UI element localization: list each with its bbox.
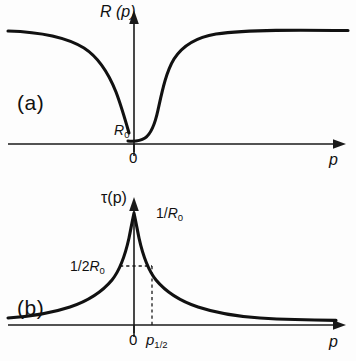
peak-subscript: 0 bbox=[178, 212, 183, 223]
r0-subscript: 0 bbox=[124, 129, 129, 140]
half-width-subscript: 1/2 bbox=[154, 339, 167, 350]
peak-variable: R bbox=[168, 205, 178, 221]
panel-a-label: (a) bbox=[17, 92, 44, 113]
half-subscript: 0 bbox=[100, 265, 105, 276]
panel-b-origin-label: 0 bbox=[129, 332, 137, 347]
panel-a-y-axis-label: R (p) bbox=[100, 4, 136, 20]
x-axis-arrowhead bbox=[333, 139, 346, 149]
figure-container: (a) R (p) p 0 R0 (b) τ(p) p 0 1/R0 bbox=[0, 0, 356, 361]
panel-b-label: (b) bbox=[17, 297, 44, 318]
panel-a-r0-label: R0 bbox=[114, 123, 129, 137]
r0-variable: R bbox=[114, 122, 124, 138]
half-width-label: p1/2 bbox=[146, 332, 168, 347]
panel-b-y-axis-label: τ(p) bbox=[101, 190, 127, 206]
half-numerator: 1/2 bbox=[70, 258, 89, 274]
half-variable: R bbox=[89, 258, 99, 274]
panel-a-plot bbox=[0, 0, 356, 180]
panel-a-curve-left bbox=[8, 31, 129, 133]
y-axis-arrowhead bbox=[129, 197, 139, 211]
panel-a-x-axis bbox=[8, 139, 346, 149]
peak-value-label: 1/R0 bbox=[156, 206, 183, 220]
panel-a-curve-right bbox=[128, 30, 348, 141]
peak-numerator: 1/ bbox=[156, 205, 168, 221]
panel-b-curve bbox=[8, 213, 336, 320]
panel-b-x-axis bbox=[8, 320, 346, 330]
half-max-value-label: 1/2R0 bbox=[70, 259, 105, 273]
panel-a-y-axis bbox=[129, 10, 139, 156]
panel-b-x-axis-label: p bbox=[329, 334, 338, 350]
panel-a-origin-label: 0 bbox=[129, 150, 137, 165]
panel-a-x-axis-label: p bbox=[329, 152, 338, 168]
